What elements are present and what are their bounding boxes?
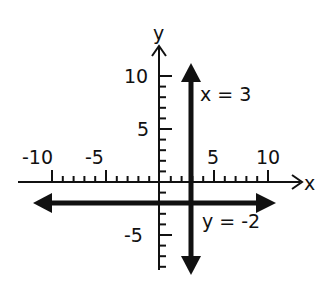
y-axis: y 10 5 -5 [124, 22, 172, 270]
x-tick-label-10: 10 [256, 146, 280, 168]
y-ticks [159, 76, 172, 267]
y-axis-label: y [153, 22, 164, 44]
x-tick-label-5: 5 [207, 146, 219, 168]
x-axis: x -10 -5 5 10 [18, 146, 315, 194]
y-tick-label-10: 10 [124, 65, 148, 87]
x-tick-label-neg5: -5 [85, 146, 104, 168]
x-axis-label: x [304, 172, 315, 194]
line-y-equals-neg2: y = -2 [33, 193, 276, 232]
y-tick-label-neg5: -5 [124, 224, 143, 246]
y-tick-label-5: 5 [137, 118, 149, 140]
line-y-equals-neg2-label: y = -2 [202, 210, 260, 232]
line-x-equals-3: x = 3 [181, 63, 251, 275]
line-x-equals-3-label: x = 3 [200, 83, 251, 105]
coordinate-graph: x -10 -5 5 10 y 10 5 [0, 0, 333, 285]
x-tick-label-neg10: -10 [22, 146, 53, 168]
